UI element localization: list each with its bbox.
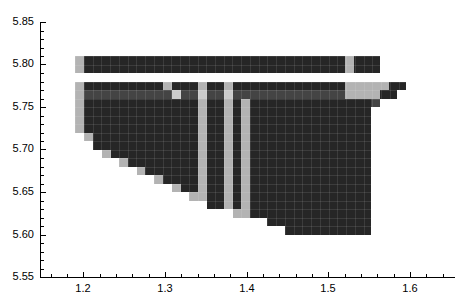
x-axis-minor-tick [149, 274, 150, 277]
heatmap-cell-run [241, 99, 250, 108]
heatmap-cell-run [233, 167, 241, 176]
y-axis-tick-label: 5.85 [0, 16, 34, 27]
heatmap-cell-run [207, 158, 224, 167]
heatmap-cell-run [84, 133, 93, 142]
heatmap-grid-line [40, 235, 455, 236]
heatmap-cell-run [189, 192, 198, 201]
heatmap-cell-run [224, 150, 233, 159]
y-axis-major-tick [41, 235, 46, 236]
heatmap-cell-run [224, 158, 233, 167]
heatmap-cell-run [345, 56, 354, 65]
y-axis-minor-tick [41, 175, 44, 176]
y-axis-minor-tick [41, 209, 44, 210]
x-axis-tick-label: 1.3 [145, 283, 185, 294]
y-axis-major-tick [41, 192, 46, 193]
heatmap-cell-run [75, 99, 84, 108]
y-axis-minor-tick [41, 218, 44, 219]
heatmap-cell-run [224, 192, 233, 201]
y-axis-tick-label: 5.55 [0, 271, 34, 282]
heatmap-cell-run [119, 158, 128, 167]
x-axis-major-tick [410, 272, 411, 277]
heatmap-cell-run [207, 82, 224, 91]
heatmap-cell-run [207, 201, 224, 210]
x-axis-minor-tick [116, 274, 117, 277]
heatmap-cell-run [241, 116, 250, 125]
y-axis-minor-tick [41, 133, 44, 134]
heatmap-cell-run [207, 133, 224, 142]
heatmap-grid-line [381, 22, 382, 277]
x-axis-line [40, 277, 455, 278]
y-axis-major-tick [41, 22, 46, 23]
heatmap-cell-run [207, 175, 224, 184]
x-axis-minor-tick [100, 274, 101, 277]
x-axis-minor-tick [361, 274, 362, 277]
y-axis-minor-tick [41, 39, 44, 40]
y-axis-minor-tick [41, 167, 44, 168]
heatmap-cell-run [93, 141, 198, 150]
heatmap-cell-run [207, 150, 224, 159]
heatmap-cell-run [198, 158, 207, 167]
x-axis-minor-tick [312, 274, 313, 277]
heatmap-cell-run [198, 107, 207, 116]
x-axis-minor-tick [132, 274, 133, 277]
x-axis-minor-tick [181, 274, 182, 277]
y-axis-tick-label: 5.60 [0, 229, 34, 240]
heatmap-cell-run [84, 56, 345, 65]
heatmap-cell-run [224, 107, 233, 116]
heatmap-grid-line [399, 22, 400, 277]
heatmap-cell-run [224, 201, 233, 210]
heatmap-cell-run [198, 150, 207, 159]
heatmap-cell-run [241, 133, 250, 142]
x-axis-tick-label: 1.4 [227, 283, 267, 294]
heatmap-plot-area [40, 22, 455, 277]
x-axis-minor-tick [345, 274, 346, 277]
heatmap-cell-run [102, 150, 111, 159]
y-axis-major-tick [41, 277, 46, 278]
heatmap-cell-run [84, 90, 171, 99]
y-axis-minor-tick [41, 99, 44, 100]
y-axis-minor-tick [41, 184, 44, 185]
heatmap-cell-run [181, 90, 198, 99]
y-axis-minor-tick [41, 252, 44, 253]
y-axis-major-tick [41, 64, 46, 65]
heatmap-cell-run [207, 167, 224, 176]
x-axis-major-tick [165, 272, 166, 277]
x-axis-minor-tick [263, 274, 264, 277]
heatmap-grid-line [390, 22, 391, 277]
heatmap-cell-run [250, 116, 371, 125]
heatmap-cell-run [207, 184, 224, 193]
x-axis-minor-tick [230, 274, 231, 277]
heatmap-cell-run [345, 65, 354, 74]
heatmap-cell-run [75, 124, 84, 133]
heatmap-cell-run [233, 82, 345, 91]
y-axis-minor-tick [41, 158, 44, 159]
x-axis-minor-tick [51, 274, 52, 277]
x-axis-minor-tick [426, 274, 427, 277]
heatmap-cell-run [250, 107, 371, 116]
heatmap-cell-run [250, 167, 371, 176]
heatmap-cell-run [250, 99, 371, 108]
heatmap-cell-run [75, 82, 84, 91]
heatmap-cell-run [75, 90, 84, 99]
heatmap-cell-run [172, 82, 198, 91]
heatmap-cell-run [233, 150, 241, 159]
y-axis-major-tick [41, 107, 46, 108]
heatmap-cell-run [250, 175, 371, 184]
heatmap-cell-run [84, 99, 198, 108]
heatmap-cell-run [75, 65, 84, 74]
heatmap-cell-run [84, 116, 198, 125]
heatmap-cell-run [250, 192, 371, 201]
heatmap-cell-run [224, 124, 233, 133]
heatmap-cell-run [207, 99, 224, 108]
heatmap-cell-run [285, 226, 371, 235]
heatmap-cell-run [84, 124, 198, 133]
heatmap-cell-run [198, 167, 207, 176]
heatmap-cell-run [241, 209, 250, 218]
heatmap-cell-run [241, 175, 250, 184]
x-axis-minor-tick [67, 274, 68, 277]
x-axis-minor-tick [198, 274, 199, 277]
x-axis-tick-label: 1.6 [390, 283, 430, 294]
heatmap-cell-run [233, 124, 241, 133]
heatmap-grid-line [40, 218, 455, 219]
heatmap-cell-run [345, 82, 389, 91]
